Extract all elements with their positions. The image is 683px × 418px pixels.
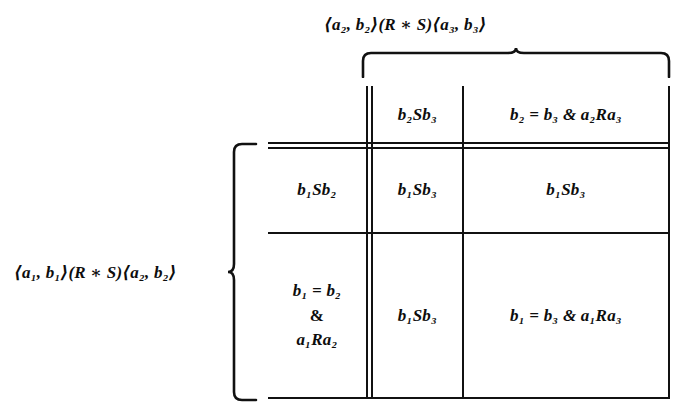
column-header-2: b₂ = b₃ & a₂Ra₃ (464, 88, 668, 142)
top-axis-label-text: ⟨a₂, b₂⟩(R ∗ S)⟨a₃, b₃⟩ (324, 15, 487, 34)
rowheader-separator-rule-left (366, 86, 368, 398)
column-header-1-text: b₂Sb₃ (398, 104, 437, 125)
table-cell-r1c2: b₁Sb₃ (464, 148, 668, 232)
top-curly-brace-icon (360, 48, 672, 78)
table-cell-r2c1-text: b₁Sb₃ (398, 305, 437, 326)
table-right-border (668, 86, 670, 398)
left-axis-label: ⟨a₁, b₁⟩(R ∗ S)⟨a₂, b₂⟩ (14, 262, 246, 283)
header-separator-rule-upper (268, 142, 670, 144)
table-cell-r2c2: b₁ = b₃ & a₁Ra₃ (464, 234, 668, 398)
left-curly-brace-icon (228, 142, 258, 402)
table-cell-r2c2-text: b₁ = b₃ & a₁Ra₃ (510, 305, 622, 326)
row-header-2: b₁ = b₂ & a₁Ra₂ (268, 234, 366, 398)
row-header-2-line-3: a₁Ra₂ (296, 328, 337, 353)
row-header-2-line-2: & (310, 304, 324, 329)
top-axis-label: ⟨a₂, b₂⟩(R ∗ S)⟨a₃, b₃⟩ (324, 14, 683, 35)
table-cell-r2c1: b₁Sb₃ (373, 234, 462, 398)
truth-table: b₂Sb₃ b₂ = b₃ & a₂Ra₃ b₁Sb₂ b₁Sb₃ b₁Sb₃ … (268, 86, 670, 400)
table-cell-r1c1: b₁Sb₃ (373, 148, 462, 232)
column-header-1: b₂Sb₃ (373, 88, 462, 142)
row-header-1: b₁Sb₂ (268, 148, 366, 232)
row-header-1-text: b₁Sb₂ (297, 179, 336, 200)
table-corner-cell (268, 88, 366, 142)
table-cell-r1c2-text: b₁Sb₃ (546, 179, 585, 200)
left-axis-label-text: ⟨a₁, b₁⟩(R ∗ S)⟨a₂, b₂⟩ (14, 263, 177, 282)
row-header-2-line-1: b₁ = b₂ (293, 279, 341, 304)
table-cell-r1c1-text: b₁Sb₃ (398, 179, 437, 200)
column-header-2-text: b₂ = b₃ & a₂Ra₃ (510, 104, 622, 125)
